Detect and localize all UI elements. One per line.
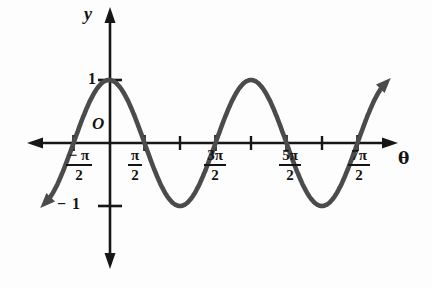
origin-label: O [92,115,104,132]
fraction-denominator: 2 [131,166,139,183]
x-tick-label-7pi-over-2: 7π 2 [337,147,381,183]
fraction-denominator: 2 [211,166,219,183]
x-tick-label-pi-over-2: π 2 [113,147,157,183]
y-tick-label-1: 1 [78,71,96,87]
x-tick-label-neg-pi-over-2: − π 2 [57,147,101,183]
x-tick-label-5pi-over-2: 5π 2 [268,147,312,183]
fraction-numerator: 7π [348,147,370,166]
fraction-denominator: 2 [355,166,363,183]
y-tick-label-neg-1: − 1 [57,196,87,212]
cosine-graph-figure: y θ O 1 − 1 − π 2 π 2 3π 2 5π 2 7π 2 [0,0,432,288]
x-tick-label-3pi-over-2: 3π 2 [193,147,237,183]
y-axis-label: y [84,5,92,23]
fraction-numerator: 5π [279,147,301,166]
fraction-numerator: 3π [204,147,226,166]
x-axis-label: θ [398,150,409,167]
fraction-denominator: 2 [286,166,294,183]
fraction-denominator: 2 [75,166,83,183]
fraction-numerator: − π [66,147,93,166]
fraction-numerator: π [128,147,142,166]
plot-canvas [0,0,432,288]
